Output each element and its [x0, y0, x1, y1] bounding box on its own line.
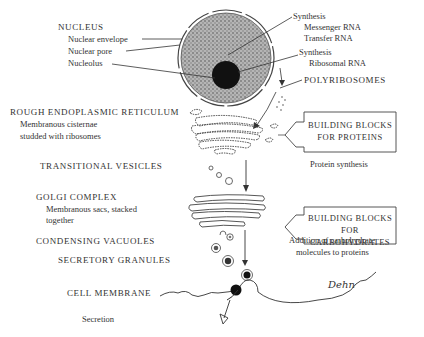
box-carbs-line1: BUILDING BLOCKS FOR	[305, 212, 395, 236]
artist-signature: Dehn	[328, 280, 355, 290]
label-rough-er-desc-1: Membranous cisternae	[20, 120, 97, 129]
label-golgi-desc-1: Membranous sacs, stacked	[46, 205, 137, 214]
label-messenger-rna: Messenger RNA	[304, 23, 361, 32]
label-nucleus: NUCLEUS	[58, 23, 104, 32]
label-nucleolus: Nucleolus	[68, 59, 102, 68]
label-golgi-complex: GOLGI COMPLEX	[36, 193, 117, 202]
nucleolus-drawing	[212, 61, 240, 89]
label-golgi-desc-2: together	[46, 216, 74, 225]
label-rough-er-desc-2: studded with ribosomes	[20, 132, 101, 141]
label-secretory-granules: SECRETORY GRANULES	[58, 256, 171, 265]
label-nuclear-pore: Nuclear pore	[68, 47, 112, 56]
label-cell-membrane: CELL MEMBRANE	[67, 289, 151, 298]
nucleus-drawing	[178, 10, 274, 106]
label-carb-addition-1: Addition of carbohydrate	[289, 236, 375, 245]
box-proteins-line1: BUILDING BLOCKS	[305, 119, 395, 131]
label-condensing-vacuoles: CONDENSING VACUOLES	[36, 237, 155, 246]
box-building-blocks-proteins: BUILDING BLOCKS FOR PROTEINS	[305, 119, 395, 143]
label-synthesis-rrna: Synthesis	[299, 48, 332, 57]
label-protein-synthesis: Protein synthesis	[310, 160, 368, 169]
label-secretion: Secretion	[82, 315, 114, 324]
label-polyribosomes: POLYRIBOSOMES	[304, 76, 386, 85]
label-ribosomal-rna: Ribosomal RNA	[309, 59, 366, 68]
label-transfer-rna: Transfer RNA	[304, 34, 353, 43]
label-nuclear-envelope: Nuclear envelope	[68, 35, 128, 44]
label-transitional-vesicles: TRANSITIONAL VESICLES	[40, 162, 162, 171]
golgi-drawing	[189, 195, 266, 227]
label-rough-er: ROUGH ENDOPLASMIC RETICULUM	[10, 108, 179, 117]
label-carb-addition-2: molecules to proteins	[296, 248, 369, 257]
label-synthesis-mrna: Synthesis	[293, 12, 326, 21]
box-proteins-line2: FOR PROTEINS	[305, 131, 395, 143]
rough-er-drawing	[190, 109, 278, 154]
